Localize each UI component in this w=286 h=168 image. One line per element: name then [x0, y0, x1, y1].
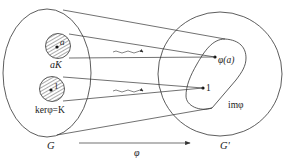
kernel-line-top: [63, 77, 203, 88]
point-identity: [49, 88, 52, 91]
coset-label: aK: [50, 59, 63, 70]
point-identity-label: 1: [54, 81, 59, 91]
wavy-arrow-kernel: [113, 90, 143, 92]
phi-a-label: φ(a): [218, 55, 234, 66]
image-region: [186, 39, 246, 109]
group-g-prime-label: G': [220, 140, 231, 151]
coset-line-bottom: [69, 57, 215, 58]
point-a-label: a: [60, 37, 65, 47]
group-g-label: G: [47, 140, 55, 151]
map-line-top: [63, 10, 225, 39]
point-a: [55, 45, 58, 48]
homomorphism-diagram: a aK 1 kerφ=K φ(a) 1 imφ G G' φ: [0, 0, 286, 168]
map-line-bottom: [57, 108, 212, 135]
group-g-ellipse: [3, 9, 91, 137]
kernel-line-bottom: [63, 88, 203, 101]
wavy-arrow-coset: [113, 51, 143, 53]
coset-line-top: [69, 34, 215, 57]
identity-prime-label: 1: [206, 83, 211, 93]
phi-map-label: φ: [134, 147, 140, 158]
image-label: imφ: [228, 100, 244, 110]
kernel-label: kerφ=K: [35, 105, 65, 115]
